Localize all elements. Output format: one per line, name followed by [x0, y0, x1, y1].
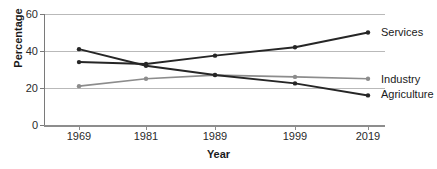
plot-area	[0, 0, 437, 169]
data-point	[366, 93, 370, 97]
line-chart: Percentage 60 40 20 0 1969 1981 1989 199…	[0, 0, 437, 169]
data-point	[213, 73, 217, 77]
series-label-agriculture: Agriculture	[381, 89, 434, 100]
data-point	[213, 53, 217, 57]
data-point	[77, 60, 81, 64]
data-point	[77, 47, 81, 51]
data-point	[77, 84, 81, 88]
data-point	[366, 77, 370, 81]
data-point	[293, 45, 297, 49]
data-point	[293, 75, 297, 79]
data-point	[293, 81, 297, 85]
series-label-industry: Industry	[381, 74, 420, 85]
data-point	[144, 77, 148, 81]
data-point	[366, 30, 370, 34]
data-point	[144, 64, 148, 68]
series-label-services: Services	[381, 27, 423, 38]
series-services	[77, 30, 370, 66]
